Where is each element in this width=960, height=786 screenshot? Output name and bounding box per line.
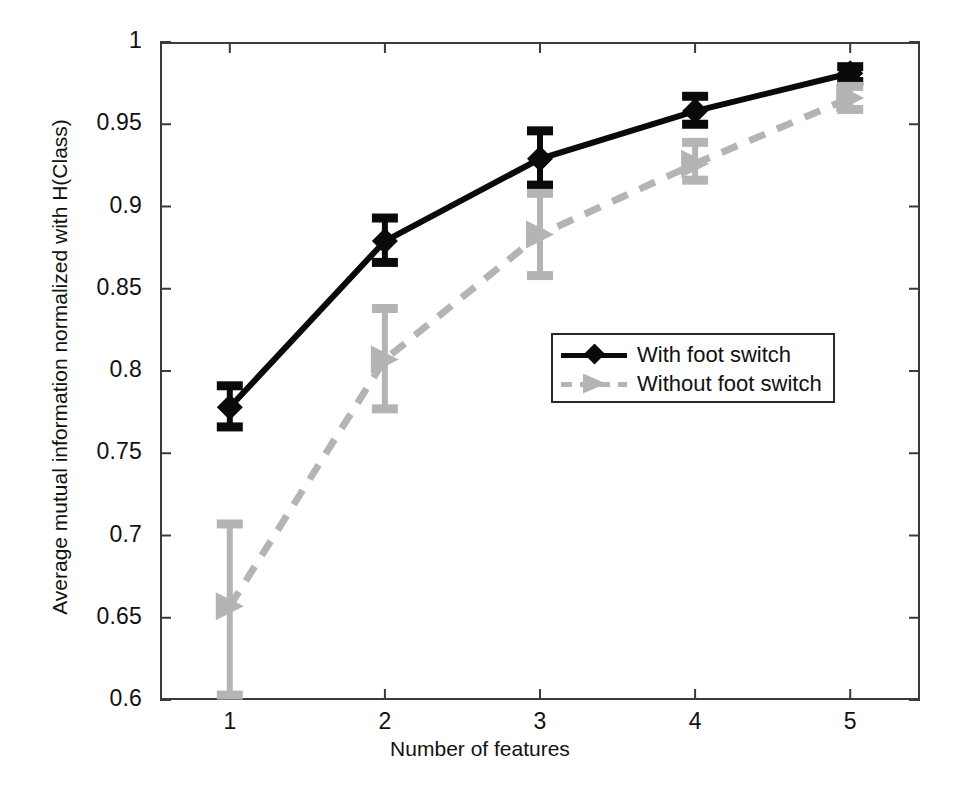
y-axis-title: Average mutual information normalized wi… <box>48 47 72 687</box>
x-tick-label: 3 <box>500 708 580 735</box>
x-tick-label: 1 <box>190 708 270 735</box>
y-tick-label: 0.8 <box>2 356 142 383</box>
x-tick-label: 5 <box>810 708 890 735</box>
data-point-marker <box>527 146 553 172</box>
y-tick-label: 0.6 <box>2 685 142 712</box>
legend-marker-diamond-icon <box>561 344 627 366</box>
legend-label: With foot switch <box>637 344 791 366</box>
legend-item-with-foot-switch[interactable]: With foot switch <box>561 340 825 369</box>
y-tick-label: 0.75 <box>2 438 142 465</box>
legend-item-without-foot-switch[interactable]: Without foot switch <box>561 369 825 398</box>
y-tick-label: 0.95 <box>2 109 142 136</box>
legend-marker-triangle-icon <box>561 373 627 395</box>
x-tick-label: 4 <box>655 708 735 735</box>
x-tick-label: 2 <box>345 708 425 735</box>
chart-legend: With foot switch Without foot switch <box>551 333 835 403</box>
y-tick-label: 0.7 <box>2 521 142 548</box>
x-axis-title: Number of features <box>0 737 960 761</box>
figure-canvas: 0.60.650.70.750.80.850.90.951 12345 Numb… <box>0 0 960 786</box>
y-tick-label: 0.65 <box>2 603 142 630</box>
y-tick-label: 0.85 <box>2 274 142 301</box>
legend-label: Without foot switch <box>637 373 822 395</box>
y-tick-label: 0.9 <box>2 192 142 219</box>
y-tick-label: 1 <box>2 27 142 54</box>
